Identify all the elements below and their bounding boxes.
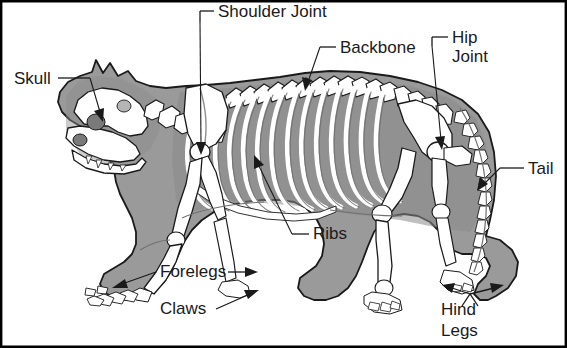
knee-joint-near	[372, 205, 392, 223]
label-hip-joint-line2: Joint	[452, 47, 488, 66]
label-skull: Skull	[14, 69, 51, 88]
label-hind-legs-line2: Legs	[441, 321, 478, 340]
label-forelegs: Forelegs	[160, 262, 226, 281]
label-hind-legs: Hind Legs	[441, 300, 478, 340]
label-shoulder-joint: Shoulder Joint	[218, 2, 327, 21]
cat-skeleton-diagram: Shoulder Joint Skull Backbone Hip Joint …	[0, 0, 567, 348]
skull-nasal-cavity	[73, 134, 87, 146]
tibia-fibula-near	[376, 220, 392, 282]
label-ribs: Ribs	[313, 224, 347, 243]
diagram-canvas: Shoulder Joint Skull Backbone Hip Joint …	[0, 0, 567, 348]
label-hip-joint-line1: Hip	[452, 28, 478, 47]
label-hind-legs-line1: Hind	[441, 300, 476, 319]
femur-far	[432, 158, 448, 208]
skull-ear-region	[117, 100, 131, 112]
label-hip-joint: Hip Joint	[452, 28, 488, 66]
paw-bones-far	[218, 280, 250, 298]
label-backbone: Backbone	[340, 38, 416, 57]
label-claws: Claws	[160, 299, 206, 318]
label-tail: Tail	[528, 159, 554, 178]
